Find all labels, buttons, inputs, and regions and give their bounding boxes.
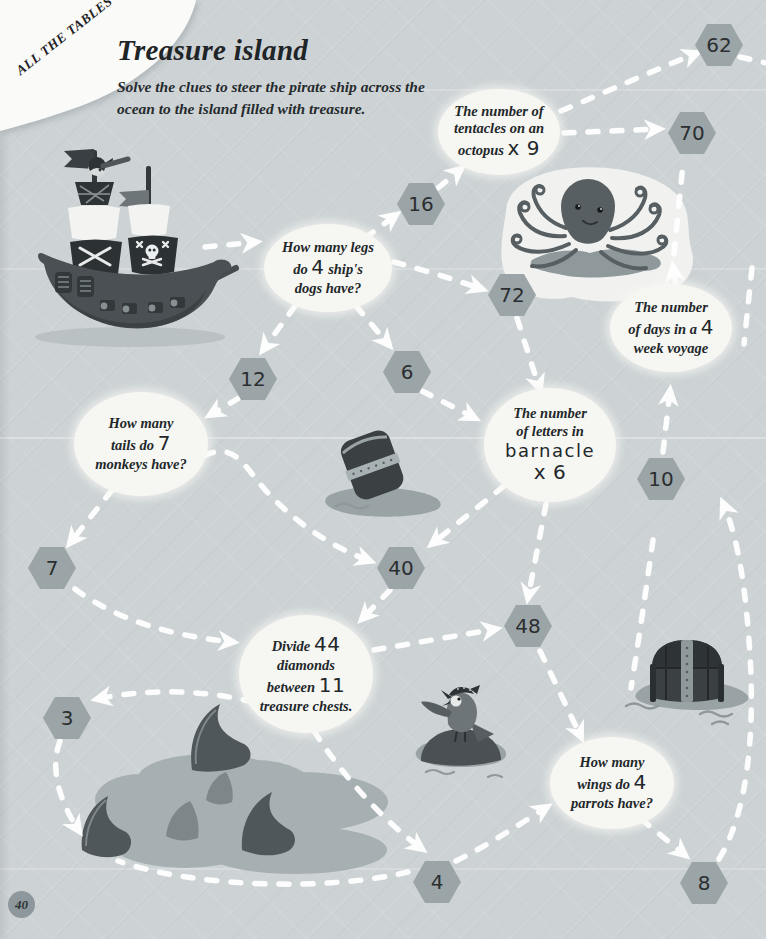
clue-octopus-tentacles: The number of tentacles on an octopus x … [438,89,560,175]
clue-text: tentacles on an [454,120,544,137]
clue-text: ship's [325,261,363,277]
page-title: Treasure island [117,34,425,67]
clue-text: treasure chests. [260,698,353,715]
clue-number: 7 [158,431,171,455]
dashed-arrow [438,169,461,188]
header: Treasure island Solve the clues to steer… [117,34,425,121]
clue-number: 11 [319,673,345,697]
clue-text: parrots have? [571,795,653,812]
shark-water-illustration [82,704,388,874]
hexagon-value: 4 [431,870,444,894]
dashed-arrow [641,819,685,855]
barrel-illustration [325,426,440,516]
treasure-chest-illustration [626,640,748,724]
clue-number: x 6 [534,461,566,485]
dashed-arrow [561,53,697,111]
dashed-arrow [517,318,540,389]
clue-parrot-wings: How many wings do 4 parrots have? [550,737,674,829]
dashed-arrow [205,242,256,247]
clue-text: of letters in [516,423,584,440]
dashed-arrow [564,129,659,133]
dashed-arrow [540,651,581,737]
hexagon-value: 10 [648,467,673,491]
clue-text: week voyage [634,340,708,357]
dashed-arrow [456,807,547,861]
clue-voyage-days: The number of days in a 4 week voyage [610,284,732,372]
dashed-arrow [432,486,504,544]
dashed-arrow [75,589,233,642]
dashed-arrow [422,391,475,418]
parrot-illustration [416,685,506,777]
clue-number: 4 [701,315,714,339]
clue-text: The number [634,299,708,316]
dashed-arrow [394,262,482,289]
clue-number: 4 [311,255,324,279]
hexagon-value: 7 [46,556,59,580]
subtitle-line: Solve the clues to steer the pirate ship… [117,78,425,95]
clue-text: diamonds [277,657,335,674]
clue-text: do [293,261,311,277]
dashed-line [744,268,752,344]
clue-text: How many [580,754,645,771]
hexagon-value: 8 [698,871,711,895]
clue-number: x 9 [508,136,540,160]
dashed-arrow [263,306,295,350]
hexagon-value: 12 [240,367,265,391]
dashed-arrow [356,306,389,345]
page-number-badge: 40 [8,891,35,918]
dashed-arrow [362,590,390,619]
hexagon-value: 70 [679,121,704,145]
clue-ship-dogs-legs: How many legs do 4 ship's dogs have? [264,224,392,312]
dashed-line [631,540,653,688]
dashed-arrow [97,692,253,702]
clue-text: wings do [577,776,633,792]
clue-word: barnacle [505,440,595,461]
clue-text: monkeys have? [95,456,186,473]
clue-text: tails do [111,437,158,453]
clue-number: 4 [634,770,647,794]
dashed-arrow [374,629,496,650]
dashed-arrow [528,504,546,598]
dashed-arrow [70,490,112,543]
hexagon-value: 16 [408,192,433,216]
clue-text: How many legs [282,239,374,256]
clue-number: 44 [314,632,340,656]
hexagon-value: 6 [401,360,414,384]
dashed-arrow [663,391,670,452]
clue-text: The number [513,405,587,422]
dashed-arrow [56,741,79,831]
dashed-arrow [210,398,239,415]
subtitle-line: ocean to the island filled with treasure… [117,100,365,117]
hexagon-value: 40 [388,556,413,580]
clue-text: dogs have? [295,280,361,297]
hexagon-value: 48 [515,614,540,638]
page-subtitle: Solve the clues to steer the pirate ship… [117,76,425,121]
clue-text: How many [109,415,174,432]
book-page: 62 70 16 72 12 6 10 7 40 48 3 4 8 The nu… [0,0,766,939]
octopus-illustration [501,167,693,301]
dashed-line [740,57,766,63]
clue-barnacle-letters: The number of letters in barnacle x 6 [484,388,616,502]
clue-text: Divide [272,638,314,654]
clue-divide-diamonds: Divide 44 diamonds between 11 treasure c… [239,615,373,733]
hexagon-value: 3 [61,706,74,730]
clue-text: octopus [458,142,508,158]
page-number: 40 [15,897,28,913]
clue-text: The number of [454,103,543,120]
clue-text: of days in a [628,321,701,337]
clue-text: between [267,679,319,695]
hexagon-value: 62 [706,33,731,57]
clue-monkey-tails: How many tails do 7 monkeys have? [74,392,208,496]
hexagon-value: 72 [499,283,524,307]
